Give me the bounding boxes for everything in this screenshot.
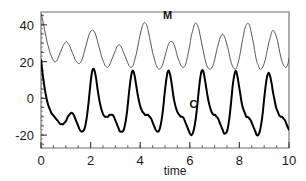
- x-tick-label: 4: [137, 153, 144, 168]
- y-tick-label: 0: [27, 91, 34, 106]
- series-line-C: [41, 60, 289, 136]
- x-tick-label: 10: [282, 153, 296, 168]
- series-line-M: [41, 14, 289, 69]
- x-tick-label: 8: [236, 153, 243, 168]
- y-tick-label: 40: [20, 18, 34, 33]
- x-tick-label: 6: [186, 153, 193, 168]
- x-tick-label: 0: [37, 153, 44, 168]
- x-tick-label: 2: [87, 153, 94, 168]
- chart-figure: -20020400246810timeMC: [0, 0, 306, 181]
- series-label-M: M: [163, 9, 172, 21]
- chart-canvas: -20020400246810timeMC: [0, 0, 306, 181]
- y-tick-label: -20: [15, 128, 34, 143]
- y-tick-label: 20: [20, 55, 34, 70]
- x-axis-title: time: [164, 164, 187, 178]
- series-label-C: C: [190, 98, 198, 110]
